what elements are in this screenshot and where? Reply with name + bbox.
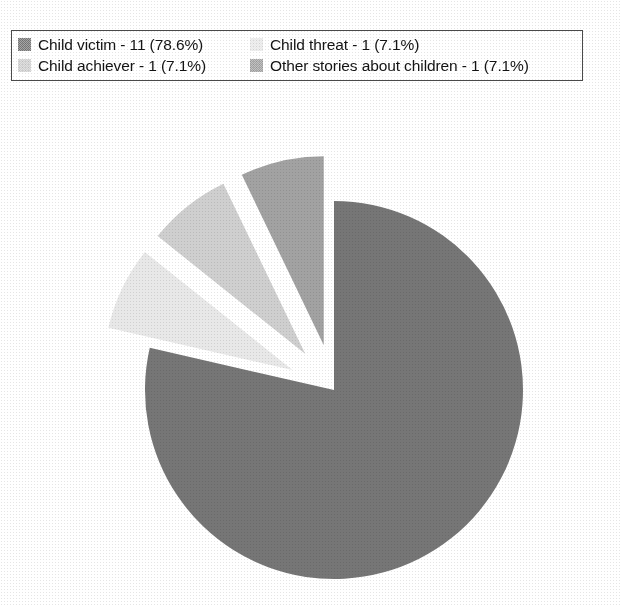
legend-row: Child achiever - 1 (7.1%) Other stories … [18,55,576,76]
pie-slice-child-threat[interactable] [108,252,292,370]
legend-label-other-stories: Other stories about children - 1 (7.1%) [270,57,529,74]
legend-label-child-threat: Child threat - 1 (7.1%) [270,36,419,53]
chart-legend: Child victim - 11 (78.6%) Child threat -… [11,30,583,81]
legend-item-other-stories: Other stories about children - 1 (7.1%) [250,55,529,76]
pie-chart [0,0,622,607]
legend-swatch-child-victim [18,38,31,51]
pie-slice-child-achiever[interactable] [158,184,306,354]
pie-slice-child-victim[interactable] [145,201,523,579]
pie-chart-svg [0,0,622,607]
legend-row: Child victim - 11 (78.6%) Child threat -… [18,34,576,55]
legend-label-child-achiever: Child achiever - 1 (7.1%) [38,57,206,74]
legend-item-child-victim: Child victim - 11 (78.6%) [18,34,250,55]
legend-item-child-threat: Child threat - 1 (7.1%) [250,34,419,55]
legend-label-child-victim: Child victim - 11 (78.6%) [38,36,203,53]
scan-grain-overlay [0,0,622,607]
legend-swatch-child-threat [250,38,263,51]
pie-slice-other-stories-about-children[interactable] [242,156,324,345]
legend-swatch-other-stories [250,59,263,72]
pie-slice-group [108,156,523,579]
legend-swatch-child-achiever [18,59,31,72]
legend-item-child-achiever: Child achiever - 1 (7.1%) [18,55,250,76]
